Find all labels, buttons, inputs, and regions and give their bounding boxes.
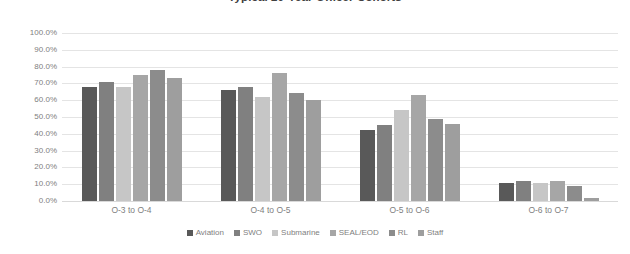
bar-cluster: [201, 33, 340, 201]
bar: [133, 75, 148, 201]
bar-group: [479, 33, 618, 201]
legend-item-label: Staff: [427, 228, 443, 237]
y-axis-tick-label: 60.0%: [7, 96, 57, 104]
bar: [499, 183, 514, 201]
x-axis-category-label: O-6 to O-7: [479, 205, 618, 215]
y-axis-tick-label: 50.0%: [7, 113, 57, 121]
bar: [167, 78, 182, 201]
legend-item-label: SEAL/EOD: [339, 228, 379, 237]
legend-item-label: Aviation: [196, 228, 224, 237]
bar: [533, 183, 548, 201]
legend-swatch-icon: [234, 230, 240, 236]
bar-group: [62, 33, 201, 201]
y-axis-tick-label: 0.0%: [7, 197, 57, 205]
bar: [272, 73, 287, 201]
bar: [221, 90, 236, 201]
legend-swatch-icon: [330, 230, 336, 236]
bar: [567, 186, 582, 201]
bar: [306, 100, 321, 201]
y-axis-tick-label: 80.0%: [7, 63, 57, 71]
y-axis-tick-label: 30.0%: [7, 147, 57, 155]
legend-item-label: SWO: [243, 228, 262, 237]
bar: [394, 110, 409, 201]
x-axis-category-labels: O-3 to O-4O-4 to O-5O-5 to O-6O-6 to O-7: [62, 205, 618, 215]
y-axis-tick-label: 40.0%: [7, 130, 57, 138]
chart-legend: AviationSWOSubmarineSEAL/EODRLStaff: [0, 228, 630, 237]
bar: [116, 87, 131, 201]
chart-title: Typical 20-Year Officer Cohorts: [0, 0, 630, 3]
y-axis-tick-label: 20.0%: [7, 163, 57, 171]
bar: [360, 130, 375, 201]
legend-item[interactable]: Aviation: [187, 228, 224, 237]
y-axis-tick-label: 10.0%: [7, 180, 57, 188]
legend-item[interactable]: SEAL/EOD: [330, 228, 379, 237]
bar: [82, 87, 97, 201]
bar-group: [201, 33, 340, 201]
bar: [99, 82, 114, 201]
y-axis-tick-label: 100.0%: [7, 29, 57, 37]
bar: [428, 119, 443, 201]
legend-item-label: RL: [398, 228, 408, 237]
legend-item[interactable]: Staff: [418, 228, 443, 237]
bar-chart: Typical 20-Year Officer Cohorts 0.0%10.0…: [0, 0, 630, 254]
legend-swatch-icon: [418, 230, 424, 236]
x-axis-category-label: O-3 to O-4: [62, 205, 201, 215]
x-axis-category-label: O-5 to O-6: [340, 205, 479, 215]
y-axis-tick-label: 90.0%: [7, 46, 57, 54]
bar: [255, 97, 270, 201]
bar-cluster: [62, 33, 201, 201]
legend-swatch-icon: [187, 230, 193, 236]
y-axis-tick-label: 70.0%: [7, 79, 57, 87]
legend-item[interactable]: Submarine: [272, 228, 320, 237]
bar: [584, 198, 599, 201]
bar-group: [340, 33, 479, 201]
bar-clusters: [62, 33, 618, 201]
bar: [516, 181, 531, 201]
gridline: [62, 201, 618, 202]
bar-cluster: [479, 33, 618, 201]
bar: [289, 93, 304, 201]
bar: [150, 70, 165, 201]
legend-item[interactable]: SWO: [234, 228, 262, 237]
bar: [238, 87, 253, 201]
bar: [377, 125, 392, 201]
bar: [445, 124, 460, 201]
legend-swatch-icon: [272, 230, 278, 236]
x-axis-category-label: O-4 to O-5: [201, 205, 340, 215]
legend-item-label: Submarine: [281, 228, 320, 237]
legend-swatch-icon: [389, 230, 395, 236]
legend-item[interactable]: RL: [389, 228, 408, 237]
bar-cluster: [340, 33, 479, 201]
bar: [550, 181, 565, 201]
bar: [411, 95, 426, 201]
